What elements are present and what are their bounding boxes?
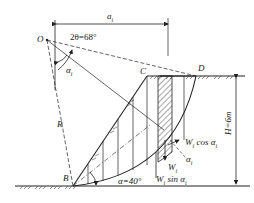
- radius-slice: [47, 40, 164, 130]
- label-O: O: [37, 35, 44, 44]
- slope-face: [73, 76, 147, 186]
- label-2theta: 2θ=68°: [70, 33, 97, 42]
- slope-stability-diagram: O 2θ=68° αi ai C D R B α=40° H=6m Wi cos…: [0, 0, 254, 203]
- diagram-graphics: [0, 0, 254, 203]
- label-wcos: Wi cos αi: [185, 138, 217, 149]
- label-alpha-force: αi: [186, 155, 192, 166]
- label-D: D: [198, 64, 205, 73]
- slip-surface-arc: [73, 76, 196, 186]
- label-height: H=6m: [224, 111, 233, 135]
- slope-hatch: [92, 100, 134, 160]
- label-C: C: [140, 67, 146, 76]
- label-wsin: Wi sin αi: [156, 175, 187, 186]
- label-B: B: [63, 174, 69, 183]
- label-R: R: [57, 120, 63, 129]
- label-alpha-i: αi: [66, 66, 72, 77]
- radius-OB: [47, 40, 73, 186]
- label-alpha-slope: α=40°: [118, 177, 141, 186]
- label-ai: ai: [107, 12, 113, 23]
- label-w: Wi: [168, 163, 177, 174]
